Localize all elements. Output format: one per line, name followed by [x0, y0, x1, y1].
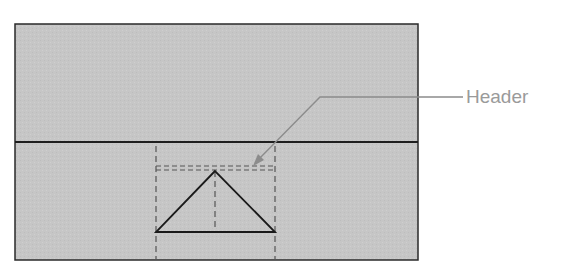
diagram: Header: [0, 0, 570, 274]
diagram-canvas: [0, 0, 570, 274]
callout-label-header: Header: [466, 86, 528, 108]
